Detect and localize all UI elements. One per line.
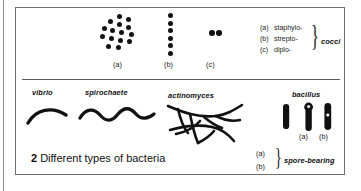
cocci-legend-name: staphylo-: [274, 24, 302, 31]
spore-bearing-group-label: spore-bearing: [284, 156, 335, 165]
spirochaete-wavy-line-icon: [78, 102, 158, 124]
bacillus-rod-terminal-spore-icon: [302, 100, 316, 132]
streptococci-chain-icon: [168, 13, 178, 55]
cocci-dot: [117, 14, 122, 19]
bacillus-label: bacillus: [292, 90, 320, 99]
vibrio-label: vibrio: [32, 88, 53, 97]
cocci-dot: [168, 28, 173, 33]
cocci-legend-row: (c)diplo-: [260, 46, 291, 53]
cocci-label-c: (c): [206, 60, 215, 69]
spore-bearing-brace-icon: }: [275, 144, 282, 170]
cocci-dot: [109, 36, 114, 41]
cocci-dot: [168, 51, 173, 56]
cocci-dot: [168, 13, 173, 18]
cocci-dot: [129, 32, 134, 37]
spirochaete-label: spirochaete: [85, 88, 128, 97]
staphylococci-cluster-icon: [96, 13, 148, 55]
cocci-legend-row: (a)staphylo-: [260, 24, 302, 31]
figure-caption-number: 2: [31, 152, 37, 164]
panel-divider: [22, 79, 340, 80]
cocci-dot: [100, 34, 105, 39]
cocci-dot: [118, 38, 123, 43]
page-margin-rule: [3, 0, 4, 191]
spore-legend-key-a: (a): [256, 149, 265, 158]
cocci-legend-row: (b)strepto-: [260, 35, 298, 42]
cocci-dot: [119, 30, 124, 35]
vibrio-comma-curve-icon: [26, 104, 70, 126]
diplococci-pair-icon: [209, 30, 225, 38]
cocci-dot: [168, 43, 173, 48]
cocci-dot: [126, 25, 131, 30]
cocci-dot: [127, 39, 132, 44]
cocci-group-label: cocci: [321, 37, 340, 46]
cocci-legend-name: diplo-: [274, 46, 291, 53]
cocci-dot: [168, 36, 173, 41]
cocci-dot: [116, 45, 121, 50]
cocci-legend-key: (c): [260, 46, 274, 53]
cocci-dot: [102, 26, 107, 31]
figure-caption-text: Different types of bacteria: [40, 152, 165, 164]
cocci-dot: [209, 30, 215, 36]
cocci-dot: [126, 17, 131, 22]
bacillus-group: [280, 100, 340, 132]
cocci-dot: [108, 19, 113, 24]
bacillus-label-a: (a): [299, 132, 308, 141]
cocci-dot: [216, 30, 222, 36]
figure-caption: 2Different types of bacteria: [31, 152, 165, 164]
actinomyces-branching-filament-icon: [164, 100, 248, 148]
bacillus-rod-central-spore-icon: [321, 102, 335, 132]
spore-legend-key-b: (b): [256, 162, 265, 171]
figure-box: (a) (b) (c) (a)staphylo- (b)strepto- (c)…: [15, 7, 345, 175]
cocci-dot: [106, 44, 111, 49]
cocci-legend-key: (a): [260, 24, 274, 31]
cocci-legend-name: strepto-: [274, 35, 298, 42]
cocci-legend-key: (b): [260, 35, 274, 42]
cocci-label-a: (a): [113, 60, 122, 69]
cocci-dot: [168, 21, 173, 26]
bacillus-label-b: (b): [319, 132, 328, 141]
bacillus-rod-icon: [280, 103, 292, 131]
cocci-dot: [117, 22, 122, 27]
cocci-brace-icon: }: [311, 20, 319, 50]
actinomyces-label: actinomyces: [168, 91, 214, 100]
cocci-label-b: (b): [164, 60, 173, 69]
cocci-dot: [110, 28, 115, 33]
